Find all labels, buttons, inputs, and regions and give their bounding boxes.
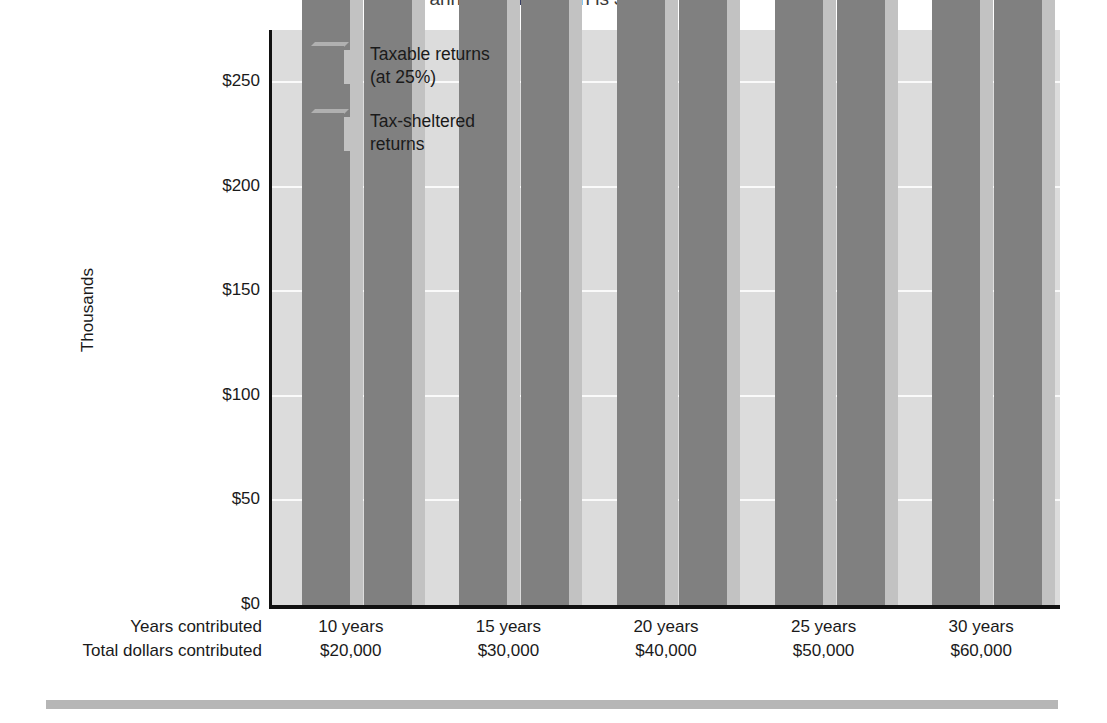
bar-side-face xyxy=(507,0,520,605)
bar-side-face xyxy=(885,0,898,605)
bar-side-face xyxy=(727,0,740,605)
y-axis-tick-label: $0 xyxy=(188,594,260,614)
y-axis-tick-label: $150 xyxy=(188,280,260,300)
x-axis-category-sublabel: $40,000 xyxy=(587,641,745,661)
bar-front-face xyxy=(521,0,569,605)
bar-side-face xyxy=(569,0,582,605)
chart-legend: Taxable returns (at 25%) Tax-sheltered r… xyxy=(310,42,490,176)
bar-side-face xyxy=(823,0,836,605)
bar-front-face xyxy=(617,0,665,605)
x-axis-category-label: 10 years xyxy=(272,617,430,637)
y-axis-line xyxy=(269,30,272,608)
x-axis-category-label: 15 years xyxy=(429,617,587,637)
x-axis-line xyxy=(269,605,1060,609)
bar-front-face xyxy=(837,0,885,605)
bar-side-face xyxy=(665,0,678,605)
bar-side-face xyxy=(980,0,993,605)
legend-label: Taxable returns (at 25%) xyxy=(370,42,490,89)
bar: $157,909 xyxy=(837,0,885,605)
x-axis-category-sublabel: $20,000 xyxy=(272,641,430,661)
bar: $58,648 xyxy=(521,0,569,605)
legend-swatch-icon xyxy=(310,109,348,151)
y-axis-tick-label: $100 xyxy=(188,385,260,405)
y-axis-title: Thousands xyxy=(78,210,98,410)
legend-item-taxable-returns: Taxable returns (at 25%) xyxy=(310,42,490,89)
bar-front-face xyxy=(994,0,1042,605)
x-axis-row-label-years: Years contributed xyxy=(40,617,262,637)
y-axis-tick-label: $50 xyxy=(188,489,260,509)
y-axis-tick-label: $250 xyxy=(188,71,260,91)
legend-label: Tax-sheltered returns xyxy=(370,109,475,156)
bar-front-face xyxy=(932,0,980,605)
bar: $77,985 xyxy=(617,0,665,605)
bar: $244,691 xyxy=(994,0,1042,605)
bar: $116,313 xyxy=(775,0,823,605)
x-axis-category-sublabel: $30,000 xyxy=(429,641,587,661)
bar: $167,603 xyxy=(932,0,980,605)
x-axis-category-sublabel: $60,000 xyxy=(902,641,1060,661)
bar-front-face xyxy=(679,0,727,605)
legend-item-tax-sheltered-returns: Tax-sheltered returns xyxy=(310,109,490,156)
y-axis-tick-label: $200 xyxy=(188,176,260,196)
chart-figure: annual contribution is $2,000. Thousands… xyxy=(0,0,1107,723)
x-axis-category-label: 20 years xyxy=(587,617,745,637)
x-axis-category-label: 30 years xyxy=(902,617,1060,637)
bar-front-face xyxy=(775,0,823,605)
bar: $98,846 xyxy=(679,0,727,605)
legend-swatch-icon xyxy=(310,42,348,84)
x-axis-row-label-dollars: Total dollars contributed xyxy=(40,641,262,661)
bottom-divider xyxy=(46,700,1058,709)
x-axis-category-sublabel: $50,000 xyxy=(745,641,903,661)
x-axis-category-label: 25 years xyxy=(745,617,903,637)
bar-side-face xyxy=(1042,0,1055,605)
